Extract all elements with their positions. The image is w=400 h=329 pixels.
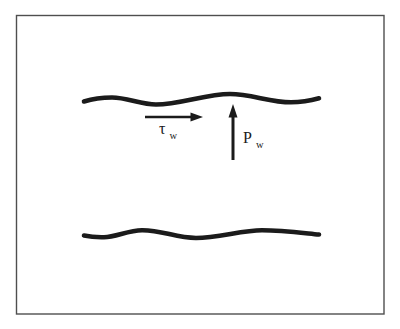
diagram-canvas: τ w P w	[0, 0, 400, 329]
shear-stress-symbol: τ	[159, 120, 166, 137]
pressure-arrow	[229, 104, 238, 160]
wavy-wall-forces-diagram: τ w P w	[0, 0, 400, 329]
pressure-subscript: w	[256, 139, 264, 150]
pressure-arrowhead-icon	[229, 104, 238, 118]
shear-stress-arrowhead-icon	[191, 113, 204, 122]
figure-border	[17, 16, 385, 315]
lower-wavy-wall	[84, 230, 319, 238]
shear-stress-label: τ w	[159, 120, 177, 141]
shear-stress-subscript: w	[169, 130, 177, 141]
pressure-label: P w	[243, 129, 264, 150]
shear-stress-arrow	[145, 113, 203, 122]
pressure-symbol: P	[243, 129, 252, 146]
upper-wavy-wall	[84, 94, 319, 105]
